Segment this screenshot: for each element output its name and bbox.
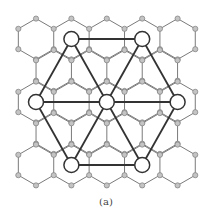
- lattice-site: [69, 142, 74, 147]
- lattice-site: [69, 121, 74, 126]
- lattice-site: [193, 89, 198, 94]
- lattice-bond: [89, 19, 107, 29]
- lattice-site: [87, 152, 92, 157]
- superlattice-site-top-left: [64, 32, 79, 47]
- lattice-site: [157, 152, 162, 157]
- lattice-site: [104, 58, 109, 63]
- superlattice-site-center: [99, 95, 114, 110]
- lattice-bond: [142, 175, 160, 185]
- lattice-site: [140, 142, 145, 147]
- lattice-site: [193, 152, 198, 157]
- lattice-site: [16, 173, 21, 178]
- lattice-bond: [107, 175, 125, 185]
- lattice-site: [16, 26, 21, 31]
- lattice-site: [140, 121, 145, 126]
- lattice-bond: [178, 112, 196, 122]
- lattice-site: [87, 89, 92, 94]
- lattice-bond: [54, 19, 72, 29]
- lattice-bond: [36, 19, 54, 29]
- lattice-site: [175, 16, 180, 21]
- lattice-site: [33, 79, 38, 84]
- lattice-site: [33, 183, 38, 188]
- lattice-site: [33, 121, 38, 126]
- lattice-site: [69, 183, 74, 188]
- superlattice-site-left: [29, 95, 44, 110]
- lattice-bond: [160, 19, 178, 29]
- lattice-site: [175, 121, 180, 126]
- lattice-site: [157, 111, 162, 116]
- superlattice-site-bottom-right: [135, 158, 150, 173]
- lattice-site: [157, 89, 162, 94]
- lattice-bond: [18, 19, 36, 29]
- lattice-site: [175, 79, 180, 84]
- lattice-site: [104, 79, 109, 84]
- lattice-bond: [160, 175, 178, 185]
- lattice-bond: [178, 82, 196, 92]
- lattice-site: [122, 89, 127, 94]
- lattice-site: [87, 111, 92, 116]
- superlattice-site-top-right: [135, 32, 150, 47]
- lattice-site: [157, 26, 162, 31]
- lattice-site: [87, 48, 92, 53]
- lattice-bond: [18, 112, 36, 122]
- lattice-site: [33, 142, 38, 147]
- lattice-site: [157, 48, 162, 53]
- lattice-bond: [18, 145, 36, 155]
- lattice-bond: [178, 175, 196, 185]
- lattice-site: [51, 173, 56, 178]
- lattice-site: [16, 47, 21, 52]
- lattice-site: [193, 26, 198, 31]
- lattice-bond: [71, 175, 89, 185]
- lattice-bond: [89, 175, 107, 185]
- lattice-site: [122, 173, 127, 178]
- lattice-site: [51, 152, 56, 157]
- lattice-site: [140, 183, 145, 188]
- lattice-site: [140, 58, 145, 63]
- lattice-site: [16, 110, 21, 115]
- lattice-site: [175, 142, 180, 147]
- lattice-site: [87, 26, 92, 31]
- lattice-site: [87, 173, 92, 178]
- lattice-site: [16, 89, 21, 94]
- lattice-site: [104, 142, 109, 147]
- lattice-bond: [36, 175, 54, 185]
- lattice-site: [69, 16, 74, 21]
- lattice-bond: [142, 19, 160, 29]
- lattice-site: [104, 16, 109, 21]
- lattice-site: [104, 183, 109, 188]
- lattice-bond: [178, 145, 196, 155]
- lattice-site: [140, 16, 145, 21]
- lattice-bond: [125, 19, 143, 29]
- lattice-site: [33, 16, 38, 21]
- lattice-site: [140, 79, 145, 84]
- lattice-site: [16, 152, 21, 157]
- lattice-site: [175, 58, 180, 63]
- lattice-site: [122, 152, 127, 157]
- lattice-site: [51, 26, 56, 31]
- figure-caption: (a): [0, 196, 212, 207]
- lattice-bond: [178, 49, 196, 59]
- lattice-site: [175, 183, 180, 188]
- lattice-bond: [18, 175, 36, 185]
- superlattice-site-right: [170, 95, 185, 110]
- lattice-site: [104, 121, 109, 126]
- lattice-bond: [18, 82, 36, 92]
- lattice-site: [193, 110, 198, 115]
- lattice-site: [193, 47, 198, 52]
- lattice-site: [157, 173, 162, 178]
- lattice-diagram: [0, 0, 212, 216]
- lattice-bond: [178, 19, 196, 29]
- lattice-site: [122, 48, 127, 53]
- lattice-bond: [125, 175, 143, 185]
- lattice-site: [122, 26, 127, 31]
- lattice-site: [51, 89, 56, 94]
- lattice-bond: [107, 19, 125, 29]
- lattice-bond: [18, 49, 36, 59]
- lattice-site: [69, 58, 74, 63]
- lattice-site: [51, 48, 56, 53]
- lattice-site: [193, 173, 198, 178]
- lattice-bond: [71, 19, 89, 29]
- lattice-site: [51, 111, 56, 116]
- lattice-bond: [54, 175, 72, 185]
- lattice-site: [122, 111, 127, 116]
